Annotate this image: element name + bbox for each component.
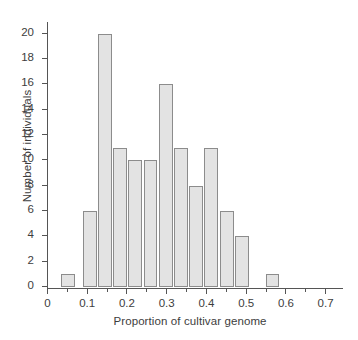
x-tick-0.2: 0.2 [126,289,127,294]
histogram-bar [144,160,158,287]
y-tick-label: 20 [21,26,34,38]
x-tick-label: 0.3 [159,297,175,309]
x-minor-tick [186,289,187,292]
y-tick-label: 6 [28,203,34,215]
x-tick-label: 0 [44,297,50,309]
x-minor-tick [107,289,108,292]
y-tick-label: 4 [28,228,34,240]
x-axis-line [47,288,343,289]
histogram-bar [220,211,234,287]
plot-area: 02468101214161820 00.10.20.30.40.50.60.7 [47,22,343,288]
x-minor-tick [305,289,306,292]
x-tick-0.6: 0.6 [285,289,286,294]
x-tick-label: 0.5 [238,297,254,309]
y-tick-12: 12 [42,134,47,135]
histogram-bar [98,34,112,287]
x-tick-label: 0.4 [198,297,214,309]
x-minor-tick [67,289,68,292]
histogram-bar [128,160,142,287]
histogram-bar [189,186,203,287]
y-tick-4: 4 [42,235,47,236]
x-minor-tick [146,289,147,292]
y-tick-16: 16 [42,83,47,84]
y-tick-8: 8 [42,185,47,186]
histogram-bar [266,274,280,287]
y-tick-label: 10 [21,152,34,164]
x-minor-tick [226,289,227,292]
x-tick-0.3: 0.3 [166,289,167,294]
x-tick-0.7: 0.7 [325,289,326,294]
x-tick-0.5: 0.5 [246,289,247,294]
x-tick-0.4: 0.4 [206,289,207,294]
y-tick-label: 2 [28,254,34,266]
y-tick-6: 6 [42,210,47,211]
x-tick-label: 0.6 [278,297,294,309]
histogram-bar [83,211,97,287]
y-tick-label: 16 [21,76,34,88]
histogram-bar [235,236,249,287]
x-tick-label: 0.2 [119,297,135,309]
y-tick-0: 0 [42,286,47,287]
y-tick-label: 14 [21,102,34,114]
histogram-bar [174,148,188,287]
y-tick-label: 18 [21,51,34,63]
x-tick-label: 0.1 [79,297,95,309]
y-tick-label: 0 [28,279,34,291]
y-tick-20: 20 [42,33,47,34]
y-tick-18: 18 [42,58,47,59]
y-tick-14: 14 [42,109,47,110]
y-axis-line [47,22,48,289]
x-tick-0.1: 0.1 [87,289,88,294]
histogram-bar [113,148,127,287]
x-tick-0: 0 [47,289,48,294]
histogram-figure: Number of individuals Proportion of cult… [0,0,358,340]
histogram-bar [61,274,75,287]
x-minor-tick [266,289,267,292]
x-tick-label: 0.7 [318,297,334,309]
y-tick-label: 12 [21,127,34,139]
histogram-bar [159,84,173,287]
histogram-bar [204,148,218,287]
x-axis-label: Proportion of cultivar genome [40,315,340,327]
y-tick-10: 10 [42,159,47,160]
y-tick-label: 8 [28,178,34,190]
y-tick-2: 2 [42,261,47,262]
